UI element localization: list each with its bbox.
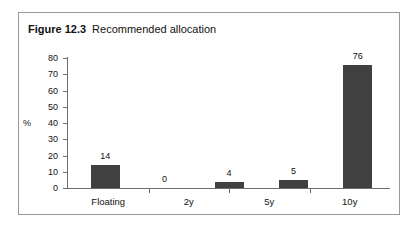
y-axis-tick [63,91,67,92]
y-axis-tick [63,74,67,75]
bar-value-label: 14 [85,152,125,161]
y-axis-title: % [23,119,31,128]
figure-container: Figure 12.3Recommended allocation % 0102… [0,0,418,232]
y-axis-tick [63,123,67,124]
x-axis-tick [310,189,311,193]
y-axis-tick [63,188,67,189]
y-axis-tick-label: 10 [34,168,58,177]
bar [343,65,372,189]
bar [91,165,120,188]
y-axis-tick [63,107,67,108]
x-axis-category-label: 10y [310,196,391,207]
bar [279,180,308,188]
x-axis-tick [149,189,150,193]
bar-value-label: 4 [209,169,249,178]
y-axis-tick [63,139,67,140]
y-axis-tick-label: 70 [34,70,58,79]
y-axis-tick [63,58,67,59]
y-axis-tick-labels: 01020304050607080 [34,0,58,232]
y-axis-tick-label: 30 [34,135,58,144]
y-axis-tick-label: 40 [34,119,58,128]
y-axis-tick-label: 0 [34,184,58,193]
x-axis-category-label: 2y [149,196,230,207]
y-axis-tick-label: 60 [34,87,58,96]
bar-value-label: 5 [273,167,313,176]
y-axis-tick-label: 50 [34,103,58,112]
bar [215,182,244,189]
x-axis-tick [229,189,230,193]
y-axis-tick-label: 80 [34,54,58,63]
y-axis-tick [63,172,67,173]
y-axis-tick-label: 20 [34,152,58,161]
figure-caption-text: Recommended allocation [92,23,216,35]
x-axis-category-label: Floating [68,196,149,207]
y-axis-tick [63,156,67,157]
bar-value-label: 0 [145,175,185,184]
bar-value-label: 76 [338,52,378,61]
x-axis-category-label: 5y [229,196,310,207]
